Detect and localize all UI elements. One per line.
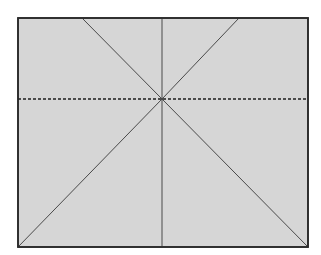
- paper-rectangle: [18, 18, 308, 247]
- crease-pattern-diagram: [0, 0, 321, 255]
